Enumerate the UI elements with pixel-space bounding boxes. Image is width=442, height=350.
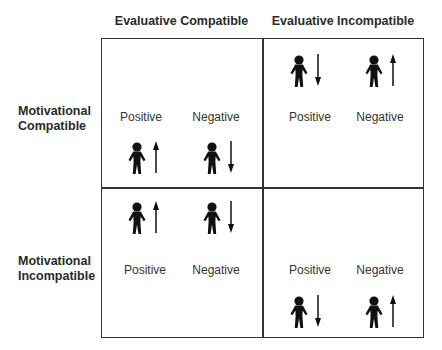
arrow-up-icon — [390, 295, 396, 327]
row-label-line1: Motivational — [18, 254, 95, 269]
label-positive: Positive — [105, 263, 185, 277]
label-negative: Negative — [176, 263, 256, 277]
person-arrow-down-glyph — [290, 294, 330, 330]
label-negative: Negative — [340, 110, 420, 124]
label-positive: Positive — [270, 110, 350, 124]
row-label-line1: Motivational — [18, 104, 91, 119]
person-arrow-up-glyph — [128, 200, 168, 236]
arrow-down-icon — [228, 201, 234, 233]
arrow-up-icon — [153, 141, 159, 173]
person-icon — [291, 55, 308, 87]
person-arrow-up-glyph — [365, 294, 405, 330]
person-arrow-down-glyph — [290, 53, 330, 89]
label-negative: Negative — [176, 110, 256, 124]
person-icon — [366, 55, 383, 87]
person-icon — [204, 142, 221, 174]
person-icon — [291, 296, 308, 328]
arrow-down-icon — [315, 295, 321, 327]
person-arrow-down-glyph — [203, 200, 243, 236]
person-icon — [366, 296, 383, 328]
row-label-line2: Compatible — [18, 119, 91, 134]
column-header-evaluative-incompatible: Evaluative Incompatible — [262, 14, 424, 28]
label-negative: Negative — [340, 263, 420, 277]
arrow-up-icon — [153, 201, 159, 233]
row-label-line2: Incompatible — [18, 269, 95, 284]
person-icon — [129, 202, 146, 234]
person-icon — [204, 202, 221, 234]
arrow-down-icon — [315, 54, 321, 86]
label-positive: Positive — [101, 110, 181, 124]
label-positive: Positive — [270, 263, 350, 277]
person-arrow-down-glyph — [203, 140, 243, 176]
person-arrow-up-glyph — [365, 53, 405, 89]
row-label-motivational-incompatible: Motivational Incompatible — [18, 254, 95, 284]
arrow-up-icon — [390, 54, 396, 86]
person-arrow-up-glyph — [128, 140, 168, 176]
column-header-evaluative-compatible: Evaluative Compatible — [101, 14, 262, 28]
row-label-motivational-compatible: Motivational Compatible — [18, 104, 91, 134]
person-icon — [129, 142, 146, 174]
grid-divider-horizontal — [101, 187, 424, 189]
arrow-down-icon — [228, 141, 234, 173]
